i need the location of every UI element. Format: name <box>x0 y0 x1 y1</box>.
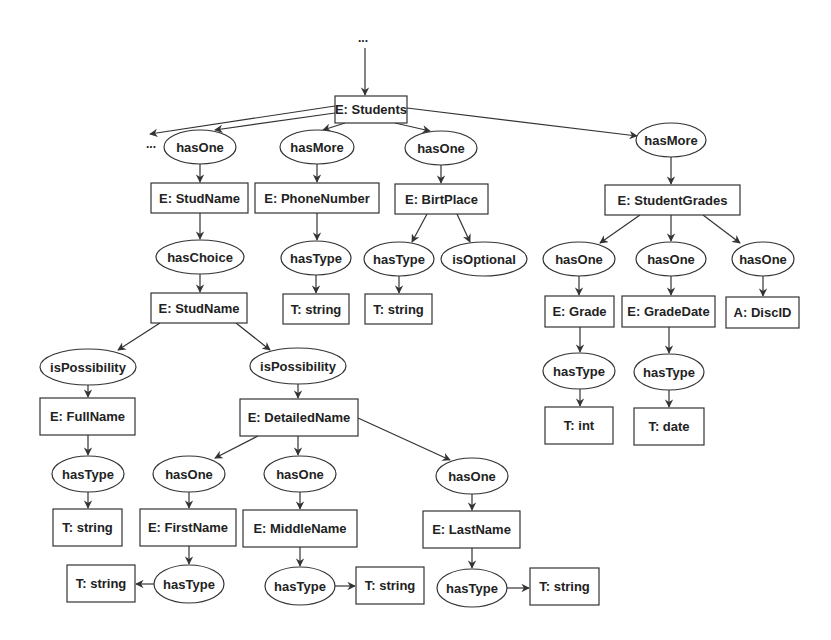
node-label: isOptional <box>452 252 516 267</box>
entity-node-firstname: E: FirstName <box>140 509 236 546</box>
entity-node-int: T: int <box>545 407 613 444</box>
node-label: hasType <box>290 251 342 266</box>
ellipsis-left: ... <box>146 137 156 151</box>
node-label: E: PhoneNumber <box>264 191 369 206</box>
node-label: A: DiscID <box>734 305 792 320</box>
node-label: hasOne <box>739 252 787 267</box>
node-label: E: StudName <box>159 301 240 316</box>
node-label: E: FullName <box>50 409 125 424</box>
entity-node-string-full: T: string <box>53 509 122 546</box>
relation-node-hasone-2: hasOne <box>405 131 477 165</box>
ellipsis-top: ... <box>358 31 368 45</box>
relation-node-hastype-middle: hasType <box>265 567 335 605</box>
node-label: hasOne <box>276 467 324 482</box>
node-label: E: BirtPlace <box>405 192 478 207</box>
entity-node-detailedname: E: DetailedName <box>240 399 358 436</box>
relation-node-hasone-g3: hasOne <box>732 242 794 276</box>
node-label: hasMore <box>290 140 343 155</box>
relation-node-hastype-full: hasType <box>52 456 124 492</box>
relation-node-hastype-last: hasType <box>437 569 507 607</box>
relation-node-hastype-first: hasType <box>154 565 224 603</box>
node-label: hasOne <box>417 141 465 156</box>
node-label: hasChoice <box>167 250 233 265</box>
relation-node-hastype-grade: hasType <box>543 353 615 389</box>
node-label: E: StudentGrades <box>618 193 728 208</box>
relation-node-hasone-g2: hasOne <box>636 242 706 276</box>
node-label: hasType <box>373 252 425 267</box>
entity-node-discid: A: DiscID <box>726 297 799 328</box>
entity-node-studname-1: E: StudName <box>151 183 248 213</box>
entity-node-date: T: date <box>634 408 704 445</box>
relation-node-hastype-phone: hasType <box>281 241 351 275</box>
relation-node-hasmore-1: hasMore <box>280 130 354 164</box>
relation-node-isoptional: isOptional <box>441 242 527 276</box>
edge-arrow <box>358 418 450 460</box>
relation-node-hasone-middle: hasOne <box>264 456 336 492</box>
edge-arrow <box>703 215 740 243</box>
node-label: E: StudName <box>159 191 240 206</box>
node-label: T: string <box>291 302 342 317</box>
edge-arrow <box>215 436 258 458</box>
relation-node-ispossibility-1: isPossibility <box>40 349 136 385</box>
node-label: E: FirstName <box>148 520 228 535</box>
node-label: E: LastName <box>432 522 511 537</box>
node-label: E: Grade <box>552 304 606 319</box>
node-label: T: string <box>76 576 127 591</box>
node-label: E: MiddleName <box>253 521 346 536</box>
edge-arrow <box>412 214 427 242</box>
relation-node-haschoice: hasChoice <box>156 240 244 274</box>
relation-node-hasone-last: hasOne <box>436 458 508 494</box>
entity-node-string-first: T: string <box>67 565 135 602</box>
node-label: T: string <box>62 520 113 535</box>
edge-arrow <box>118 323 160 350</box>
entity-node-lastname: E: LastName <box>423 511 520 548</box>
node-label: hasOne <box>165 467 213 482</box>
node-label: hasMore <box>644 133 697 148</box>
entity-node-middlename: E: MiddleName <box>243 510 357 547</box>
node-label: hasType <box>446 581 498 596</box>
relation-node-hastype-gradedate: hasType <box>634 354 704 390</box>
relation-node-hasone-first: hasOne <box>153 456 225 492</box>
node-label: hasType <box>274 579 326 594</box>
entity-node-studname-2: E: StudName <box>151 293 247 323</box>
node-label: T: string <box>373 302 424 317</box>
schema-diagram: E: StudentshasOnehasMorehasOnehasMoreE: … <box>0 0 831 640</box>
node-label: hasOne <box>647 252 695 267</box>
relation-node-hasone-g1: hasOne <box>543 242 615 276</box>
entity-node-studentgrades: E: StudentGrades <box>605 185 740 215</box>
entity-node-string-last: T: string <box>530 568 599 605</box>
entity-node-birtplace: E: BirtPlace <box>395 184 488 214</box>
edge-arrow <box>457 214 470 242</box>
relation-node-ispossibility-2: isPossibility <box>250 348 346 384</box>
edge-arrow <box>323 123 345 130</box>
node-label: hasType <box>553 364 605 379</box>
edge-arrow <box>600 215 640 243</box>
entity-node-grade: E: Grade <box>545 296 614 327</box>
node-label: T: string <box>365 578 416 593</box>
node-label: T: date <box>648 419 689 434</box>
node-label: E: DetailedName <box>248 410 351 425</box>
node-label: hasOne <box>448 469 496 484</box>
node-label: E: GradeDate <box>627 304 709 319</box>
entity-node-gradedate: E: GradeDate <box>622 296 715 327</box>
node-label: hasOne <box>176 140 224 155</box>
node-label: hasType <box>643 365 695 380</box>
node-label: hasType <box>62 467 114 482</box>
node-label: T: int <box>564 418 595 433</box>
node-label: E: Students <box>335 102 407 117</box>
entity-node-string-phone: T: string <box>283 294 349 324</box>
nodes-layer: E: StudentshasOnehasMorehasOnehasMoreE: … <box>40 96 799 607</box>
node-label: hasType <box>163 577 215 592</box>
node-label: T: string <box>539 579 590 594</box>
edge-arrow <box>395 123 430 131</box>
node-label: isPossibility <box>260 359 337 374</box>
node-label: hasOne <box>555 252 603 267</box>
entity-node-string-middle: T: string <box>356 567 424 604</box>
entity-node-fullname: E: FullName <box>40 398 135 435</box>
relation-node-hastype-birt: hasType <box>364 242 434 276</box>
relation-node-hasone-1: hasOne <box>164 130 236 164</box>
entity-node-string-birt: T: string <box>365 294 432 324</box>
node-label: isPossibility <box>50 360 127 375</box>
relation-node-hasmore-2: hasMore <box>636 123 706 157</box>
entity-node-students: E: Students <box>335 96 407 123</box>
